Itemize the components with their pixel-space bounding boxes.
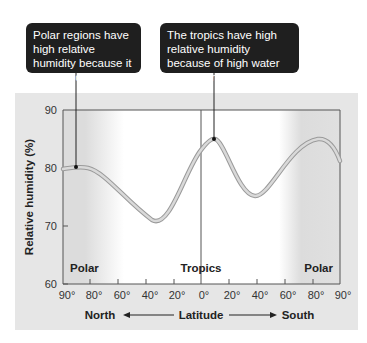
right-arrow-icon: [229, 312, 277, 318]
xtick-label: 60°: [114, 289, 131, 301]
xtick-label: 60°: [280, 289, 297, 301]
xtick-label: 90°: [59, 289, 76, 301]
south-label: South: [282, 309, 315, 321]
xtick-label: 80°: [86, 289, 103, 301]
tropics-pointer-dot: [212, 137, 216, 141]
xtick-label: 20°: [224, 289, 241, 301]
region-label-polar-south: Polar: [304, 262, 333, 274]
region-label-polar-north: Polar: [70, 262, 99, 274]
xtick-label: 20°: [169, 289, 186, 301]
left-arrow-icon: [123, 312, 174, 318]
xtick-label: 40°: [252, 289, 269, 301]
polar-pointer-dot: [74, 165, 78, 169]
y-axis-label: Relative humidity (%): [23, 139, 35, 255]
xtick-label: 40°: [142, 289, 159, 301]
north-label: North: [85, 309, 116, 321]
ytick-label: 90: [45, 104, 57, 116]
ytick-label: 70: [45, 220, 57, 232]
polar-callout: Polar regions have high relative humidit…: [26, 23, 141, 73]
region-label-tropics: Tropics: [181, 262, 222, 274]
ytick-label: 80: [45, 162, 57, 174]
ytick-label: 60: [45, 278, 57, 290]
latitude-label: Latitude: [179, 309, 224, 321]
tropics-callout: The tropics have high relative humidity …: [160, 23, 299, 73]
xtick-label: 0°: [199, 289, 210, 301]
xtick-label: 80°: [308, 289, 325, 301]
xtick-label: 90°: [335, 289, 352, 301]
